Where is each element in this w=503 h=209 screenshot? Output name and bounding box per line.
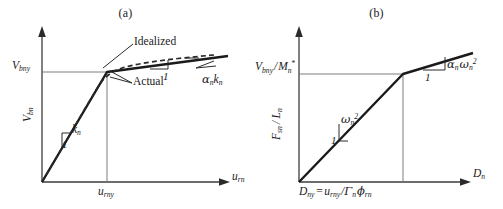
x-axis-label-a: urn xyxy=(232,171,245,184)
slope-label-initial-a: kn xyxy=(72,124,81,137)
actual-leader-line-2 xyxy=(110,71,132,83)
slope-run-initial-a: 1 xyxy=(62,138,68,150)
slope-run-postyield-a: 1 xyxy=(163,70,169,82)
panel-a-plot xyxy=(0,0,251,209)
x-axis-a xyxy=(42,178,230,185)
y-axis-arrow-icon xyxy=(295,26,303,37)
y-tick-label-b: Vbny / Mn* xyxy=(255,60,295,74)
y-axis-b xyxy=(295,26,303,182)
idealized-curve-b xyxy=(299,53,473,182)
slope-label-postyield-b: αn ωn2 xyxy=(447,58,477,72)
actual-label: Actual xyxy=(133,75,164,87)
x-tick-label-b: Dny = urny /Γn ϕrn xyxy=(299,186,372,199)
x-axis-arrow-icon xyxy=(460,178,471,185)
y-axis-a xyxy=(38,26,46,182)
y-axis-arrow-icon xyxy=(38,26,46,37)
idealized-leader-line xyxy=(103,44,133,68)
panel-b-plot xyxy=(251,0,502,209)
slope-run-postyield-b: 1 xyxy=(425,71,431,83)
idealized-label: Idealized xyxy=(134,35,176,47)
x-axis-label-b: Dn xyxy=(473,168,485,181)
slope-label-postyield-a: αnkn xyxy=(202,74,222,87)
panel-b: (b) Fsn / Ln Vbny / Mn* Dny = urny /Γn ϕ xyxy=(251,0,502,209)
y-axis-label-a: Vbn xyxy=(22,107,35,122)
x-axis-arrow-icon xyxy=(219,178,230,185)
y-tick-label-a: Vbny xyxy=(12,60,30,73)
y-axis-label-b: Fsn / Ln xyxy=(271,108,284,140)
slope-run-initial-b: 1 xyxy=(331,134,337,146)
slope-label-initial-b: ωn2 xyxy=(341,113,358,127)
actual-leader-line-1 xyxy=(110,77,132,83)
x-tick-label-a: urny xyxy=(98,186,114,199)
actual-curve-a xyxy=(42,55,214,182)
panel-a: (a) xyxy=(0,0,251,209)
